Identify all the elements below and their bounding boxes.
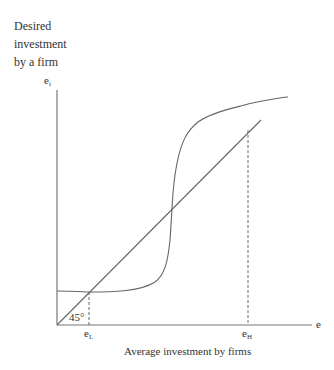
forty-five-degree-line bbox=[57, 120, 261, 325]
x-axis-symbol: e bbox=[316, 318, 321, 330]
diagram-canvas bbox=[0, 0, 334, 370]
x-axis-title: Average investment by firms bbox=[124, 345, 251, 357]
high-equilibrium-label: eH bbox=[242, 327, 252, 341]
desired-investment-curve bbox=[57, 97, 288, 292]
angle-label: 45° bbox=[69, 311, 84, 323]
low-equilibrium-sub: L bbox=[89, 333, 93, 341]
low-equilibrium-label: eL bbox=[84, 327, 93, 341]
high-equilibrium-sub: H bbox=[247, 333, 252, 341]
